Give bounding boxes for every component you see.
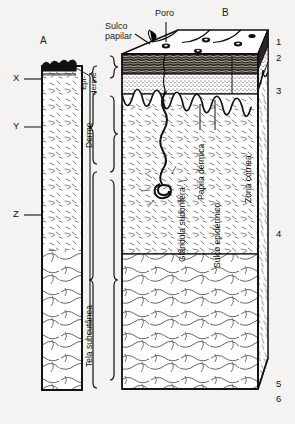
bracket-group-panel-b [110,56,118,380]
inner-label-papila-dermica: Papila dérmica [197,144,206,200]
marker-z: Z [13,208,19,219]
panel-b-label: B [222,8,229,18]
number-2: 2 [276,52,281,63]
layer-label-derme: Derme [85,122,94,148]
number-5: 5 [276,378,281,389]
layer-label-epiderme-line2: derme [90,72,99,95]
number-4: 4 [276,228,281,239]
layer-label-epiderme-line1: Epi- [80,76,89,90]
inner-label-sulco-epidermico: Sulco epidérmico [213,203,222,268]
inner-label-glandula-sudorifera: Glândula sudorífera [178,187,187,262]
number-3: 3 [276,85,281,96]
marker-x: X [13,72,19,83]
inner-label-zona-cornea: Zona córnea [244,155,253,203]
figure-canvas: A B Sulco papilar Poro Epi- derme Derme … [0,0,295,424]
panel-a-label: A [40,36,47,46]
number-1: 1 [276,36,281,47]
marker-y: Y [13,120,19,131]
skin-cross-section-illustration [0,0,295,424]
callout-sulco-papilar: Sulco papilar [105,22,132,41]
block-top-surface [122,30,268,54]
panel-a-slab [42,60,82,390]
panel-b-block [113,30,268,389]
layer-label-tela-subcutanea: Tela subcutânea [85,305,94,367]
number-6: 6 [276,393,281,404]
callout-poro: Poro [155,9,174,19]
